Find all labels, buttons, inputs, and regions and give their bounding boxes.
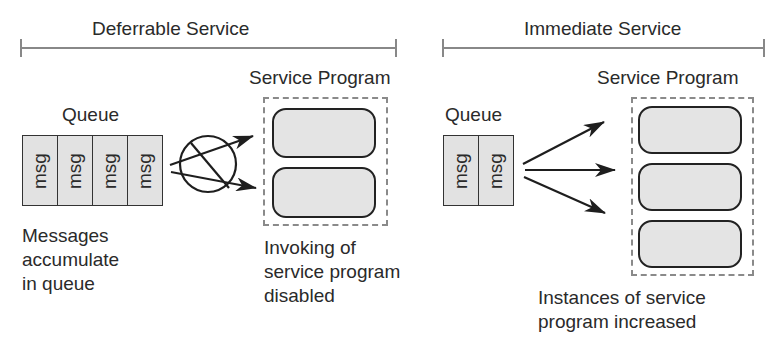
program-instance: [638, 220, 742, 268]
program-instance: [272, 108, 376, 158]
immediate-program-caption: Instances of service program increased: [538, 286, 706, 334]
deferrable-queue-caption: Messages accumulate in queue: [22, 224, 119, 296]
deferrable-program-label: Service Program: [249, 67, 391, 89]
arrow-icon: [523, 122, 604, 164]
immediate-queue: msg msg: [443, 135, 514, 206]
program-instance: [638, 106, 742, 154]
deferrable-bracket: [21, 39, 396, 57]
immediate-program-label: Service Program: [597, 67, 739, 89]
arrow-icon: [524, 177, 605, 213]
immediate-title: Immediate Service: [524, 18, 681, 40]
queue-message: msg: [23, 136, 58, 205]
immediate-bracket: [443, 39, 764, 57]
deferrable-queue-label: Queue: [62, 104, 119, 126]
queue-message: msg: [444, 136, 479, 205]
queue-message: msg: [58, 136, 93, 205]
immediate-queue-label: Queue: [445, 104, 502, 126]
queue-message: msg: [479, 136, 513, 205]
program-instance: [638, 163, 742, 211]
deferrable-queue: msg msg msg msg: [22, 135, 163, 206]
program-instance: [272, 167, 376, 218]
queue-message: msg: [93, 136, 128, 205]
deferrable-arrows: [170, 136, 256, 188]
immediate-arrows: [523, 122, 615, 213]
deferrable-title: Deferrable Service: [92, 18, 249, 40]
queue-message: msg: [128, 136, 162, 205]
deferrable-program-caption: Invoking of service program disabled: [264, 236, 400, 308]
